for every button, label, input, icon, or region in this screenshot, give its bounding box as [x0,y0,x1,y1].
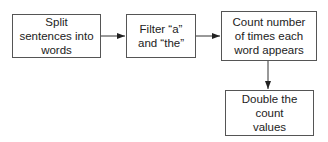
node-split-sentences: Split sentences into words [12,14,101,58]
node-double-counts: Double the count values [225,90,314,136]
node-label: Split sentences into words [13,15,100,57]
node-count-words: Count number of times each word appears [221,11,317,61]
node-filter-words: Filter “a” and “the” [126,14,196,58]
node-label: Filter “a” and “the” [127,22,195,50]
node-label: Count number of times each word appears [222,15,316,57]
node-label: Double the count values [226,92,313,134]
